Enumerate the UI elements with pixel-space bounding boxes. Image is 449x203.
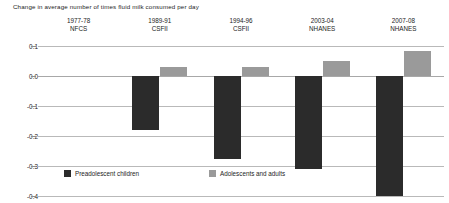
y-axis-tick-mark [31,136,36,137]
legend-color-swatch [209,170,216,177]
x-axis-group-label-survey: CSFII [200,25,281,33]
bar [214,76,241,159]
x-axis-group-label-survey: CSFII [119,25,200,33]
bar [404,51,431,77]
bar [323,61,350,76]
legend-entry: Adolescents and adults [209,170,285,177]
y-axis-tick-mark [31,106,36,107]
gridline [38,46,444,47]
legend-entry: Preadolescent children [64,170,139,177]
x-axis-group-label-survey: NHANES [282,25,363,33]
x-axis-group-label-period: 1989-91 [148,17,171,24]
y-axis-tick-mark [31,46,36,47]
y-axis-tick-mark [31,196,36,197]
legend-label: Preadolescent children [75,170,139,177]
chart-title: Change in average number of times fluid … [13,3,199,10]
bar-chart: Change in average number of times fluid … [0,0,449,203]
x-axis-group-label: 2003-04NHANES [282,17,363,34]
bar [160,67,187,76]
x-axis-group-label: 2007-08NHANES [363,17,444,34]
x-axis-group-label-period: 2003-04 [311,17,334,24]
x-axis-group-label: 1989-91CSFII [119,17,200,34]
bar [132,76,159,130]
y-axis: 0.10.0-0.1-0.2-0.3-0.4 [0,0,38,203]
x-axis-category-labels: 1977-78NFCS1989-91CSFII1994-96CSFII2003-… [38,17,444,44]
x-axis-group-label-survey: NHANES [363,25,444,33]
x-axis-group-label: 1977-78NFCS [38,17,119,34]
y-axis-tick-mark [31,76,36,77]
bar [242,67,269,76]
x-axis-group-label: 1994-96CSFII [200,17,281,34]
bar [295,76,322,169]
gridline [38,196,444,197]
bar [376,76,403,196]
x-axis-group-label-period: 1977-78 [67,17,90,24]
legend-color-swatch [64,170,71,177]
x-axis-group-label-period: 2007-08 [392,17,415,24]
x-axis-group-label-period: 1994-96 [229,17,252,24]
legend-label: Adolescents and adults [220,170,285,177]
y-axis-tick-mark [31,166,36,167]
x-axis-group-label-survey: NFCS [38,25,119,33]
